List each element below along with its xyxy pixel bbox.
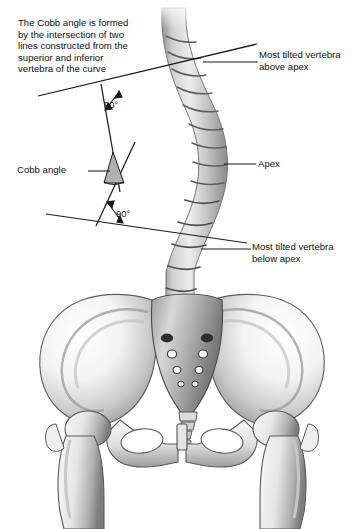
label-apex: Apex [258,158,280,170]
anatomical-illustration [0,0,364,529]
label-most-tilted-vertebra-above-apex: Most tilted vertebra above apex [259,49,341,72]
label-angle-bottom-90: 90° [116,208,130,220]
label-cobb-angle: Cobb angle [17,164,66,176]
label-angle-top-90: 90° [104,99,118,111]
figure-canvas: The Cobb angle is formed by the intersec… [0,0,364,529]
pubic-symphysis [177,424,187,450]
right-femur [253,411,306,529]
left-femur [58,411,111,529]
label-most-tilted-vertebra-below-apex: Most tilted vertebra below apex [252,241,334,264]
description-text: The Cobb angle is formed by the intersec… [18,17,128,75]
